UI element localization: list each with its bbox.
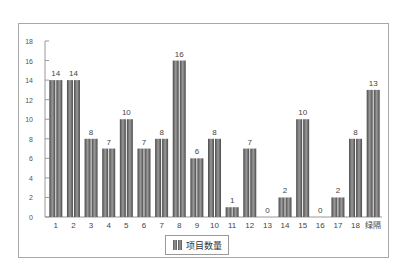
x-tick-label: 1 [54,221,59,230]
x-tick-label: 12 [245,221,254,230]
y-tick-label: 12 [25,97,33,104]
bar [180,61,186,217]
y-tick-label: 8 [29,136,33,143]
bar [190,158,196,217]
data-label: 10 [122,108,131,117]
chart-legend: 项目数量 [165,235,229,255]
data-label: 1 [230,196,235,205]
y-tick-label: 2 [29,194,33,201]
x-tick-label: 13 [263,221,272,230]
bar [144,149,150,217]
x-tick-label: 6 [142,221,147,230]
bar [56,80,62,217]
bar [296,119,302,217]
y-tick-label: 10 [25,116,33,123]
y-tick-label: 14 [25,77,33,84]
bar [356,139,362,217]
x-tick-label: 8 [177,221,182,230]
bar [286,197,292,217]
data-label: 14 [51,69,60,78]
y-tick-label: 6 [29,155,33,162]
bar [173,61,179,217]
bar [120,119,126,217]
x-tick-label: 17 [333,221,342,230]
x-tick-label: 绿隔 [365,221,381,230]
bar [243,149,249,217]
bar [49,80,55,217]
data-label: 8 [159,128,164,137]
bar [197,158,203,217]
legend-label: 项目数量 [186,239,222,252]
bar [92,139,98,217]
data-label: 2 [336,186,341,195]
bar [250,149,256,217]
bar [85,139,91,217]
x-tick-label: 11 [228,221,237,230]
bar [367,90,373,217]
bar [162,139,168,217]
x-tick-label: 4 [106,221,111,230]
bar [279,197,285,217]
bar [303,119,309,217]
y-tick-label: 0 [29,214,33,221]
y-tick-label: 18 [25,38,33,45]
bar [331,197,337,217]
y-tick-label: 4 [29,175,33,182]
data-label: 7 [248,138,253,147]
bar [338,197,344,217]
data-label: 14 [69,69,78,78]
x-tick-label: 14 [281,221,290,230]
data-label: 6 [195,147,200,156]
x-tick-label: 5 [124,221,129,230]
bar [233,207,239,217]
data-label: 2 [283,186,288,195]
bar [208,139,214,217]
legend-swatch-icon [173,240,182,250]
bar [374,90,380,217]
x-tick-label: 3 [89,221,94,230]
data-label: 8 [353,128,358,137]
x-tick-label: 10 [210,221,219,230]
bar [349,139,355,217]
bar [74,80,80,217]
x-tick-label: 7 [159,221,164,230]
bar [67,80,73,217]
bar [137,149,143,217]
data-label: 8 [89,128,94,137]
x-tick-label: 2 [71,221,76,230]
data-label: 7 [106,138,111,147]
data-label: 16 [175,50,184,59]
bar [215,139,221,217]
data-label: 13 [369,79,378,88]
data-label: 0 [318,206,323,215]
data-label: 10 [298,108,307,117]
bar [109,149,115,217]
x-tick-label: 16 [316,221,325,230]
data-label: 8 [212,128,217,137]
data-label: 0 [265,206,270,215]
x-tick-label: 15 [298,221,307,230]
data-label: 7 [142,138,147,147]
x-tick-label: 9 [195,221,200,230]
bar [226,207,232,217]
bar [102,149,108,217]
bar [127,119,133,217]
y-tick-label: 16 [25,58,33,65]
bar [155,139,161,217]
x-tick-label: 18 [351,221,360,230]
